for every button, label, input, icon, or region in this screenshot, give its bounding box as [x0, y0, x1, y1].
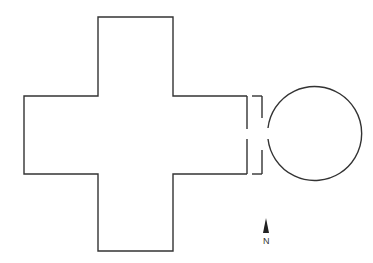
north-label: N: [263, 236, 270, 246]
north-arrow-icon: [263, 218, 269, 233]
floor-plan-diagram: N: [0, 0, 373, 263]
circular-room: [268, 87, 362, 181]
cross-outline: [24, 17, 247, 251]
plan-drawing: [0, 0, 373, 263]
